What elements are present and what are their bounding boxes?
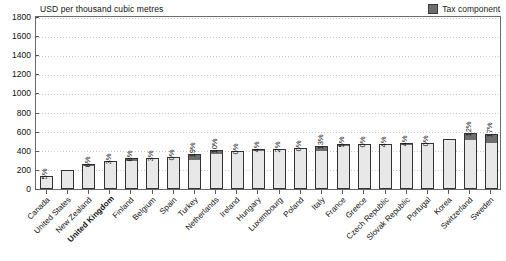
bar[interactable] <box>358 144 371 189</box>
bar[interactable] <box>167 157 180 189</box>
y-axis-tick-label: 0 <box>3 185 31 194</box>
y-axis-tick-label: 600 <box>3 128 31 137</box>
bar-price-segment <box>379 144 392 189</box>
bar-value-label: 6% <box>84 157 92 168</box>
gridline <box>36 132 500 133</box>
y-axis-tick-mark <box>35 151 39 152</box>
x-axis-tick-mark <box>46 190 47 194</box>
x-axis-tick-mark <box>88 190 89 194</box>
bar[interactable] <box>400 143 413 189</box>
bar-value-label: 0% <box>169 150 177 161</box>
y-axis-tick-mark <box>35 113 39 114</box>
gridline <box>36 75 500 76</box>
x-axis-tick-mark <box>406 190 407 194</box>
bar[interactable] <box>104 161 117 189</box>
x-axis-tick-mark <box>427 190 428 194</box>
x-axis-tick-mark <box>257 190 258 194</box>
x-axis-tick-mark <box>321 190 322 194</box>
x-axis-tick-mark <box>342 190 343 194</box>
x-axis-tick-mark <box>130 190 131 194</box>
bar-price-segment <box>464 133 477 189</box>
bar-value-label: 5% <box>42 169 50 180</box>
x-axis-tick-mark <box>448 190 449 194</box>
y-axis-tick-label: 800 <box>3 109 31 118</box>
gas-price-bar-chart: USD per thousand cubic metres Tax compon… <box>0 0 506 261</box>
x-axis-tick-mark <box>469 190 470 194</box>
bar-value-label: 5% <box>338 137 346 148</box>
y-axis-tick-mark <box>35 132 39 133</box>
chart-legend: Tax component <box>428 4 500 14</box>
bar[interactable] <box>252 149 265 189</box>
bar[interactable] <box>82 164 95 189</box>
bar-price-segment <box>294 148 307 189</box>
bar-value-label: 0% <box>359 137 367 148</box>
bar[interactable] <box>294 148 307 189</box>
bar-value-label: 0% <box>296 141 304 152</box>
bar[interactable] <box>485 134 498 189</box>
bar[interactable] <box>421 143 434 189</box>
bar[interactable] <box>231 151 244 189</box>
bar-price-segment <box>443 139 456 189</box>
x-axis-tick-mark <box>385 190 386 194</box>
bar[interactable] <box>210 150 223 189</box>
x-axis-tick-mark <box>279 190 280 194</box>
bar-value-label: 12% <box>465 122 473 137</box>
bar[interactable] <box>188 154 201 189</box>
y-axis-tick-mark <box>35 36 39 37</box>
gridline <box>36 94 500 95</box>
bar[interactable] <box>379 144 392 189</box>
bar-price-segment <box>252 149 265 189</box>
y-axis-tick-mark <box>35 93 39 94</box>
bar[interactable] <box>125 158 138 189</box>
y-axis-tick-mark <box>35 74 39 75</box>
x-axis-tick-mark <box>152 190 153 194</box>
gridline <box>36 37 500 38</box>
bar-price-segment <box>421 143 434 189</box>
bar-price-segment <box>315 146 328 189</box>
y-axis-tick-mark <box>35 55 39 56</box>
bar-value-label: 4% <box>402 136 410 147</box>
y-axis-title: USD per thousand cubic metres <box>40 4 163 14</box>
bar-value-label: 4% <box>253 142 261 153</box>
legend-swatch-tax-component <box>428 4 438 14</box>
y-axis-tick-label: 1600 <box>3 32 31 41</box>
bar[interactable] <box>464 133 477 189</box>
bar[interactable] <box>443 139 456 189</box>
bar-price-segment <box>273 149 286 189</box>
bar-value-label: 8% <box>126 151 134 162</box>
bar-price-segment <box>104 161 117 189</box>
x-axis-tick-mark <box>173 190 174 194</box>
bar-price-segment <box>231 151 244 189</box>
bar[interactable] <box>337 144 350 189</box>
bar-value-label: 10% <box>211 138 219 153</box>
bar[interactable] <box>315 146 328 189</box>
y-axis-tick-mark <box>35 170 39 171</box>
y-axis-tick-label: 1400 <box>3 51 31 60</box>
bar-value-label: 13% <box>317 134 325 149</box>
bar-price-segment <box>82 164 95 189</box>
bar-price-segment <box>61 170 74 189</box>
bar-value-label: 2% <box>275 141 283 152</box>
y-axis-tick-mark <box>35 17 39 18</box>
x-axis-tick-mark <box>194 190 195 194</box>
y-axis-tick-label: 1200 <box>3 70 31 79</box>
bar[interactable] <box>61 170 74 189</box>
x-axis-tick-mark <box>67 190 68 194</box>
x-axis-tick-mark <box>215 190 216 194</box>
bar-price-segment <box>146 158 159 189</box>
x-axis-tick-mark <box>236 190 237 194</box>
bar[interactable] <box>146 158 159 189</box>
bar-value-label: 19% <box>190 142 198 157</box>
y-axis-tick-label: 1000 <box>3 89 31 98</box>
y-axis-tick-label: 200 <box>3 166 31 175</box>
bar-price-segment <box>125 158 138 189</box>
bar-value-label: 3% <box>148 150 156 161</box>
x-axis-tick-mark <box>490 190 491 194</box>
bar-price-segment <box>337 144 350 189</box>
gridline <box>36 18 500 19</box>
bar-price-segment <box>400 143 413 189</box>
gridline <box>36 113 500 114</box>
bar-value-label: 17% <box>486 122 494 137</box>
bar[interactable] <box>273 149 286 189</box>
x-axis-tick-mark <box>300 190 301 194</box>
